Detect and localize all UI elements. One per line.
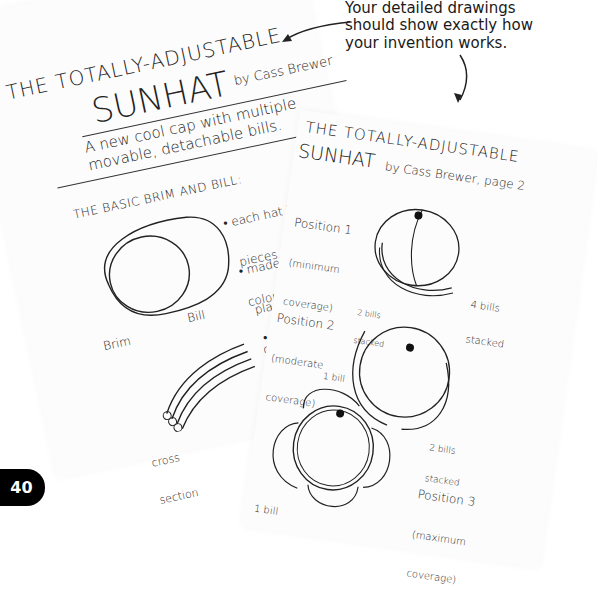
page-number-badge: 40 bbox=[0, 469, 45, 506]
arrow-to-page-1-icon bbox=[285, 22, 350, 40]
arrow-to-page-2-icon bbox=[460, 55, 467, 100]
arrowhead-icon bbox=[282, 34, 292, 42]
